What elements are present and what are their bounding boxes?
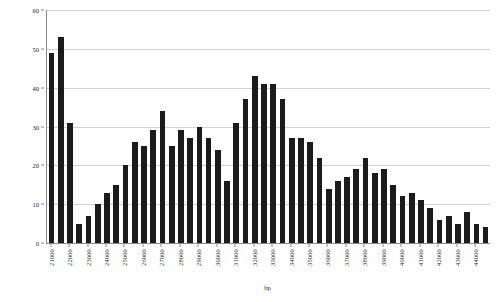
bar <box>363 158 369 243</box>
x-tick-mark <box>105 244 106 247</box>
x-tick-mark <box>235 244 236 247</box>
bar-slot <box>315 10 324 243</box>
x-tick-mark <box>50 244 51 247</box>
x-tick-label: 44000 <box>472 249 479 266</box>
bar-slot <box>389 10 398 243</box>
bar-slot <box>149 10 158 243</box>
x-tick-mark <box>309 244 310 247</box>
y-tick-mark <box>41 243 44 244</box>
bar <box>280 99 286 243</box>
x-tick-label: 29000 <box>195 249 202 266</box>
x-tick-mark <box>456 244 457 247</box>
bar-slot <box>269 10 278 243</box>
x-tick-label: 35000 <box>306 249 313 266</box>
x-tick-mark <box>87 244 88 247</box>
y-tick-label: 60 <box>33 7 40 14</box>
x-tick: 28000 <box>176 244 183 284</box>
x-tick: 41000 <box>416 244 423 284</box>
bar <box>132 142 138 243</box>
bar <box>76 224 82 243</box>
bar <box>113 185 119 243</box>
bar <box>483 227 489 243</box>
x-tick: 43000 <box>453 244 460 284</box>
bar <box>335 181 341 243</box>
x-tick: 38000 <box>361 244 368 284</box>
bar <box>307 142 313 243</box>
y-tick-label: 10 <box>33 201 40 208</box>
bar-slot <box>361 10 370 243</box>
bar-slot <box>130 10 139 243</box>
x-tick-mark <box>142 244 143 247</box>
x-tick-label: 38000 <box>361 249 368 266</box>
x-tick: 25000 <box>121 244 128 284</box>
x-tick-mark <box>198 244 199 247</box>
plot-area <box>46 10 490 244</box>
x-tick-label: 30000 <box>213 249 220 266</box>
x-tick-label: 33000 <box>269 249 276 266</box>
x-tick: 29000 <box>195 244 202 284</box>
bar-slot <box>75 10 84 243</box>
x-tick-mark <box>161 244 162 247</box>
x-tick: 36000 <box>324 244 331 284</box>
bar-slot <box>222 10 231 243</box>
bar-slot <box>186 10 195 243</box>
bar-slot <box>426 10 435 243</box>
bar-slot <box>158 10 167 243</box>
x-tick-label: 43000 <box>453 249 460 266</box>
x-tick-mark <box>179 244 180 247</box>
bar <box>150 130 156 243</box>
bar <box>233 123 239 243</box>
bar <box>353 169 359 243</box>
bar-slot <box>250 10 259 243</box>
bar <box>437 220 443 243</box>
x-tick: 31000 <box>232 244 239 284</box>
bar <box>58 37 64 243</box>
bar <box>344 177 350 243</box>
x-tick-label: 39000 <box>379 249 386 266</box>
x-tick-label: 37000 <box>342 249 349 266</box>
x-tick-label: 24000 <box>102 249 109 266</box>
bar-slot <box>112 10 121 243</box>
x-tick-label: 28000 <box>176 249 183 266</box>
bar-slot <box>370 10 379 243</box>
x-tick-label: 41000 <box>416 249 423 266</box>
x-tick-mark <box>382 244 383 247</box>
bar <box>446 216 452 243</box>
bar <box>206 138 212 243</box>
bar <box>197 127 203 244</box>
x-tick: 21000 <box>47 244 54 284</box>
x-tick: 35000 <box>306 244 313 284</box>
bar <box>169 146 175 243</box>
bar <box>215 150 221 243</box>
bar <box>178 130 184 243</box>
bar-slot <box>121 10 130 243</box>
x-tick: 23000 <box>84 244 91 284</box>
x-tick-mark <box>272 244 273 247</box>
bar <box>270 84 276 243</box>
bar-slot <box>453 10 462 243</box>
bar <box>400 196 406 243</box>
bar-slot <box>195 10 204 243</box>
bar-slot <box>278 10 287 243</box>
x-tick-mark <box>401 244 402 247</box>
bar <box>372 173 378 243</box>
c14-dates-bar-chart: number of uncalibrated C14 dates 0102030… <box>0 0 498 302</box>
x-tick: 27000 <box>158 244 165 284</box>
bar <box>141 146 147 243</box>
bar-slot <box>139 10 148 243</box>
y-tick-label: 40 <box>33 84 40 91</box>
bar <box>455 224 461 243</box>
x-tick: 32000 <box>250 244 257 284</box>
bar <box>409 193 415 243</box>
bar-slot <box>472 10 481 243</box>
x-tick: 37000 <box>342 244 349 284</box>
bar-series <box>47 10 490 243</box>
x-axis-ticks: 2100022000230002400025000260002700028000… <box>46 244 489 284</box>
bar-slot <box>65 10 74 243</box>
bar-slot <box>333 10 342 243</box>
x-tick: 42000 <box>435 244 442 284</box>
bar-slot <box>47 10 56 243</box>
x-tick-label: 32000 <box>250 249 257 266</box>
y-axis-ticks: 0102030405060 <box>0 10 44 243</box>
x-tick: 33000 <box>269 244 276 284</box>
